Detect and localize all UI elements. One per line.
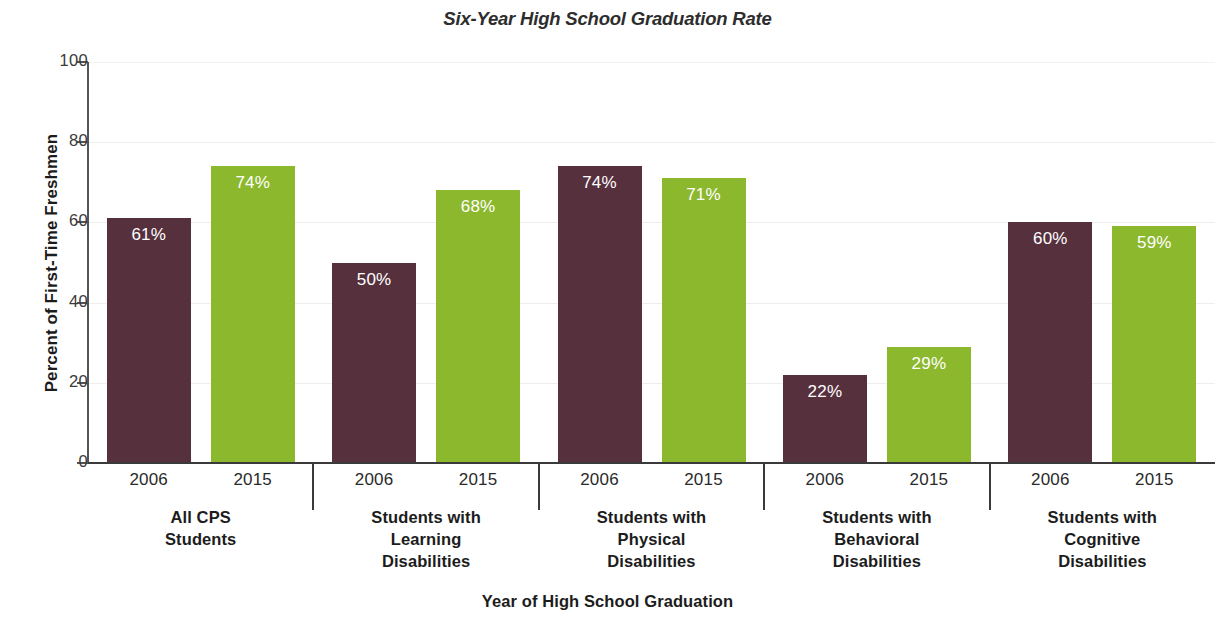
- bar-value-label: 22%: [783, 382, 867, 402]
- x-axis-year-label: 2015: [662, 470, 746, 490]
- bar: 60%: [1008, 222, 1092, 463]
- bar: 71%: [662, 178, 746, 463]
- y-axis-tick-label: 40: [26, 292, 88, 311]
- group-caption-line: All CPS: [88, 507, 313, 529]
- x-axis-title: Year of High School Graduation: [0, 592, 1215, 611]
- bar: 68%: [436, 190, 520, 463]
- group-caption-line: Students with: [539, 507, 764, 529]
- bar-value-label: 61%: [107, 225, 191, 245]
- y-axis-tick-label: 80: [26, 131, 88, 150]
- group-caption: All CPSStudents: [88, 507, 313, 551]
- group-caption-line: Disabilities: [764, 551, 989, 573]
- group-caption-line: Students: [88, 529, 313, 551]
- group-separator: [989, 463, 991, 510]
- chart-title: Six-Year High School Graduation Rate: [0, 8, 1215, 30]
- bar: 74%: [558, 166, 642, 463]
- bar-value-label: 71%: [662, 185, 746, 205]
- group-separator: [538, 463, 540, 510]
- bar: 29%: [887, 347, 971, 463]
- group-caption: Students withBehavioralDisabilities: [764, 507, 989, 572]
- group-caption-line: Disabilities: [539, 551, 764, 573]
- group-caption-line: Cognitive: [990, 529, 1215, 551]
- y-axis-tick-label: 20: [26, 372, 88, 391]
- bar-value-label: 68%: [436, 197, 520, 217]
- bar-value-label: 60%: [1008, 229, 1092, 249]
- x-axis-year-label: 2015: [887, 470, 971, 490]
- x-axis-year-label: 2006: [1008, 470, 1092, 490]
- x-axis-year-label: 2015: [211, 470, 295, 490]
- x-axis-year-label: 2006: [783, 470, 867, 490]
- chart-figure: Six-Year High School Graduation Rate Per…: [0, 0, 1215, 617]
- bar-value-label: 74%: [211, 173, 295, 193]
- y-axis-line: [87, 62, 89, 464]
- x-axis-year-label: 2006: [107, 470, 191, 490]
- group-caption-line: Students with: [990, 507, 1215, 529]
- y-axis-tick-label: 60: [26, 211, 88, 230]
- group-caption-line: Physical: [539, 529, 764, 551]
- y-axis-ticks: 020406080100: [0, 0, 88, 617]
- bar: 22%: [783, 375, 867, 463]
- bar-value-label: 59%: [1112, 233, 1196, 253]
- bar-value-label: 74%: [558, 173, 642, 193]
- y-axis-tick-label: 0: [26, 452, 88, 471]
- group-separator: [763, 463, 765, 510]
- bar: 50%: [332, 263, 416, 464]
- plot-area: 61%74%50%68%74%71%22%29%60%59%: [88, 62, 1215, 463]
- group-caption-line: Behavioral: [764, 529, 989, 551]
- x-axis-year-label: 2006: [558, 470, 642, 490]
- gridline: [88, 62, 1215, 63]
- x-axis-year-label: 2006: [332, 470, 416, 490]
- group-caption-line: Disabilities: [990, 551, 1215, 573]
- x-axis-year-label: 2015: [436, 470, 520, 490]
- group-caption-line: Disabilities: [313, 551, 538, 573]
- bar: 59%: [1112, 226, 1196, 463]
- group-caption-line: Students with: [764, 507, 989, 529]
- y-axis-tick-label: 100: [26, 51, 88, 70]
- group-caption-line: Students with: [313, 507, 538, 529]
- gridline: [88, 142, 1215, 143]
- group-caption: Students withLearningDisabilities: [313, 507, 538, 572]
- group-caption: Students withPhysicalDisabilities: [539, 507, 764, 572]
- group-separator: [312, 463, 314, 510]
- group-caption: Students withCognitiveDisabilities: [990, 507, 1215, 572]
- x-axis-year-label: 2015: [1112, 470, 1196, 490]
- bar: 74%: [211, 166, 295, 463]
- group-caption-line: Learning: [313, 529, 538, 551]
- x-axis-line: [88, 462, 1215, 464]
- bar-value-label: 29%: [887, 354, 971, 374]
- bar: 61%: [107, 218, 191, 463]
- bar-value-label: 50%: [332, 270, 416, 290]
